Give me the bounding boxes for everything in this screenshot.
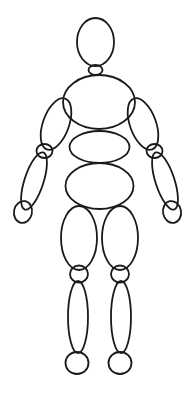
human-figure-diagram: HeadNeckChestWaistPelvisLeft Upper ArmLe… [0,0,191,393]
diagram-background [0,0,191,393]
